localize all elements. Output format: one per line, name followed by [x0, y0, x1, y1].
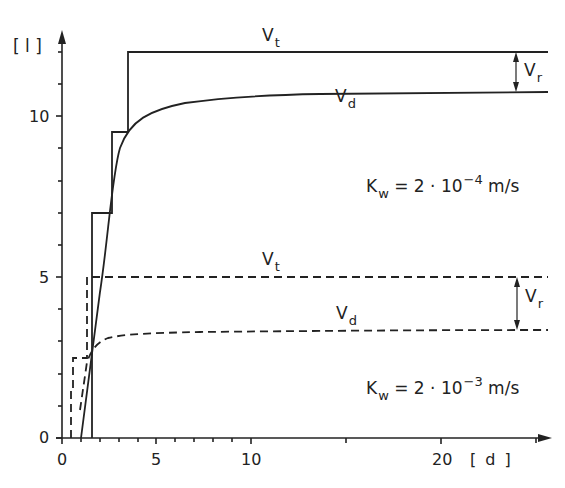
x-tick-5: 5 [151, 452, 161, 468]
x-axis-arrow-icon [538, 434, 552, 442]
y-tick-10: 10 [29, 109, 49, 125]
kw-lower-unit: m/s [488, 378, 519, 398]
label-sub-t: t [275, 259, 280, 274]
series-vd-dashed [80, 330, 548, 410]
x-tick-0: 0 [57, 452, 67, 468]
label-kw-lower: Kw = 2 · 10−3 m/s [366, 380, 519, 397]
label-vd-lower: Vd [336, 305, 357, 322]
kw-upper-unit: m/s [488, 176, 519, 196]
label-vt-lower: Vt [262, 251, 280, 268]
y-axis [56, 38, 62, 438]
kw-lower-value: = 2 · 10 [394, 378, 462, 398]
label-sub-d: d [349, 313, 357, 328]
x-tick-20: 20 [432, 452, 452, 468]
vr-lower-arrowhead-bottom-icon [514, 320, 520, 330]
label-v: V [336, 303, 348, 323]
label-vr-upper: Vr [524, 62, 542, 79]
kw-upper-value: = 2 · 10 [394, 176, 462, 196]
y-tick-0: 0 [39, 430, 49, 446]
label-sub-w: w [378, 186, 389, 201]
x-axis-unit-label: [ d ] [470, 452, 511, 468]
x-tick-10: 10 [241, 452, 261, 468]
label-sub-r: r [538, 296, 543, 311]
label-v: V [525, 286, 537, 306]
series-vt-dashed [71, 277, 548, 438]
label-vr-lower: Vr [525, 288, 543, 305]
label-v: V [262, 25, 274, 45]
y-tick-5: 5 [39, 270, 49, 286]
label-v: V [524, 60, 536, 80]
chart-canvas [0, 0, 565, 488]
kw-upper-exponent: −4 [464, 172, 483, 187]
label-sub-d: d [348, 96, 356, 111]
y-axis-arrow-icon [58, 30, 66, 44]
label-sub-r: r [537, 70, 542, 85]
label-sub-w: w [378, 388, 389, 403]
label-v: V [335, 86, 347, 106]
label-kw-upper: Kw = 2 · 10−4 m/s [366, 178, 519, 195]
label-k: K [366, 176, 377, 196]
vr-upper-arrowhead-bottom-icon [513, 82, 519, 92]
label-vt-upper: Vt [262, 27, 280, 44]
label-v: V [262, 249, 274, 269]
vr-upper-arrowhead-top-icon [513, 52, 519, 62]
vr-lower-arrowhead-top-icon [514, 277, 520, 287]
label-k: K [366, 378, 377, 398]
x-axis [56, 438, 545, 444]
y-axis-unit-label: [ l ] [13, 38, 42, 55]
label-sub-t: t [275, 35, 280, 50]
kw-lower-exponent: −3 [464, 374, 483, 389]
label-vd-upper: Vd [335, 88, 356, 105]
